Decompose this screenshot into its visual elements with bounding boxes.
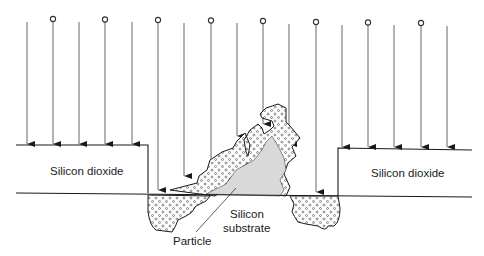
ion-circle-icon	[50, 16, 55, 21]
ion-circle-icon	[102, 17, 107, 22]
ion-implantation-diagram: Silicon dioxide Silicon dioxide Silicon …	[0, 0, 484, 256]
implant-region-right	[290, 196, 340, 229]
oxide-right-label: Silicon dioxide	[371, 167, 445, 179]
oxide-left-label: Silicon dioxide	[50, 165, 124, 177]
particle-label: Particle	[173, 235, 211, 247]
ion-circle-icon	[260, 18, 265, 23]
ion-circle-icon	[365, 20, 370, 25]
ion-circle-icon	[313, 19, 318, 24]
substrate-label-line1: Silicon	[230, 208, 264, 220]
ion-circle-icon	[155, 17, 160, 22]
substrate-label-line2: substrate	[223, 222, 270, 234]
ion-circle-icon	[418, 20, 423, 25]
ion-circle-icon	[208, 18, 213, 23]
